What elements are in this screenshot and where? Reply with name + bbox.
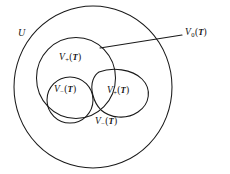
label-v-plus-main: V+(T) xyxy=(59,53,81,63)
v-zero-leader-line xyxy=(100,35,182,48)
label-v-plus-blob: V+(T) xyxy=(107,86,129,96)
label-universe: U xyxy=(18,28,25,38)
label-v-plus-main-close: ) xyxy=(78,52,81,62)
label-v-minus-outer: V−(T) xyxy=(95,117,117,127)
label-v-zero-close: ) xyxy=(204,27,207,37)
label-v-plus-blob-close: ) xyxy=(126,85,129,95)
label-v-minus-inner-close: ) xyxy=(73,84,76,94)
label-v-minus-outer-close: ) xyxy=(114,116,117,126)
label-v-minus-inner: V−(T) xyxy=(54,85,76,95)
label-v-zero: V0(T) xyxy=(185,28,207,38)
label-universe-var: U xyxy=(18,27,25,38)
venn-diagram-figure: U V+(T) V−(T) V+(T) V−(T) V0(T) xyxy=(0,0,230,174)
